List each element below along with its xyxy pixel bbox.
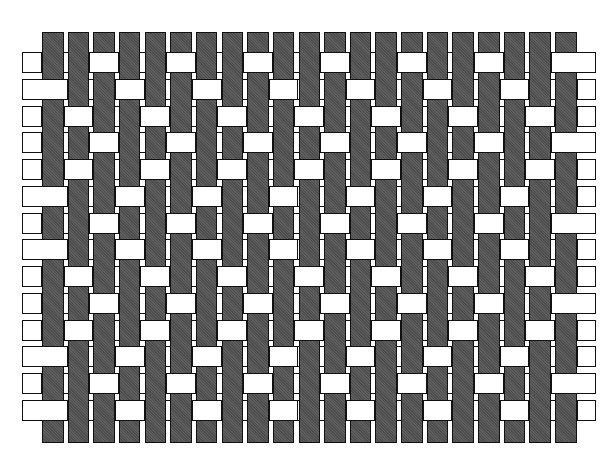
weft-float [320, 213, 350, 234]
weft-float [89, 213, 119, 234]
weft-float [140, 159, 170, 180]
weft-float [64, 266, 94, 287]
weft-float [22, 400, 68, 421]
weft-float [525, 320, 555, 341]
warp-thread [299, 32, 321, 443]
weft-float [140, 320, 170, 341]
weft-float [423, 186, 453, 207]
weft-float [448, 266, 478, 287]
weft-float [423, 79, 453, 100]
weft-float [525, 266, 555, 287]
weave-diagram [0, 0, 609, 469]
warp-thread [529, 32, 551, 443]
weft-float [22, 346, 68, 367]
weft-float [551, 293, 596, 314]
weft-float [217, 106, 247, 127]
weft-float [89, 52, 119, 73]
weft-float [115, 239, 145, 260]
weft-float [551, 213, 596, 234]
weft-float [64, 320, 94, 341]
weft-float [474, 52, 504, 73]
weft-float [294, 266, 324, 287]
weft-edge-left [22, 373, 42, 394]
weft-edge-right [577, 79, 597, 100]
weft-float [115, 346, 145, 367]
weft-float [192, 400, 222, 421]
weft-float [166, 52, 196, 73]
weft-float [166, 293, 196, 314]
weft-float [423, 346, 453, 367]
warp-thread [375, 32, 397, 443]
weft-float [500, 239, 530, 260]
weft-edge-right [577, 400, 597, 421]
weft-float [474, 293, 504, 314]
warp-thread [68, 32, 90, 443]
weft-float [217, 266, 247, 287]
weft-float [371, 106, 401, 127]
weft-float [397, 293, 427, 314]
weft-float [89, 293, 119, 314]
warp-thread [145, 32, 167, 443]
weft-float [397, 213, 427, 234]
weft-float [115, 186, 145, 207]
weft-float [320, 293, 350, 314]
weft-float [89, 132, 119, 153]
weft-float [500, 400, 530, 421]
weft-edge-right [577, 159, 597, 180]
weft-float [269, 239, 299, 260]
weft-float [22, 79, 68, 100]
weft-float [192, 186, 222, 207]
weft-float [294, 320, 324, 341]
weft-float [474, 132, 504, 153]
weft-float [448, 159, 478, 180]
weft-float [243, 52, 273, 73]
weft-float [22, 239, 68, 260]
weft-float [371, 320, 401, 341]
weft-edge-left [22, 293, 42, 314]
weft-float [346, 79, 376, 100]
weft-float [64, 159, 94, 180]
weft-float [269, 79, 299, 100]
weft-float [346, 400, 376, 421]
weft-float [166, 132, 196, 153]
weft-edge-right [577, 106, 597, 127]
weft-edge-left [22, 320, 42, 341]
weft-float [166, 213, 196, 234]
weft-float [243, 213, 273, 234]
weft-float [64, 106, 94, 127]
weft-float [346, 239, 376, 260]
warp-thread [222, 32, 244, 443]
weft-float [22, 186, 68, 207]
weft-float [500, 79, 530, 100]
weft-float [243, 373, 273, 394]
warp-thread [452, 32, 474, 443]
weft-float [269, 400, 299, 421]
weft-float [192, 239, 222, 260]
weft-edge-left [22, 159, 42, 180]
weft-float [346, 346, 376, 367]
weft-float [525, 159, 555, 180]
weft-float [89, 373, 119, 394]
weft-float [423, 400, 453, 421]
weft-float [448, 320, 478, 341]
weft-float [371, 266, 401, 287]
weft-edge-left [22, 106, 42, 127]
weft-float [140, 106, 170, 127]
weft-float [192, 346, 222, 367]
weft-float [525, 106, 555, 127]
weft-edge-left [22, 266, 42, 287]
weft-float [115, 400, 145, 421]
weft-float [474, 373, 504, 394]
weft-float [166, 373, 196, 394]
weft-float [320, 52, 350, 73]
weft-float [500, 346, 530, 367]
weft-edge-left [22, 132, 42, 153]
weft-edge-right [577, 346, 597, 367]
weft-float [320, 373, 350, 394]
weft-float [243, 293, 273, 314]
weft-float [397, 52, 427, 73]
weft-float [371, 159, 401, 180]
weft-float [346, 186, 376, 207]
weft-float [217, 320, 247, 341]
weft-float [551, 52, 596, 73]
